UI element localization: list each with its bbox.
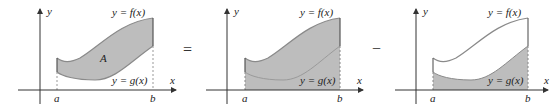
y-axis-label: y — [46, 5, 52, 17]
panel-area-under-f: y x y = f(x) y = g(x) a b — [206, 5, 363, 104]
x-axis-label: x — [356, 74, 362, 86]
panel-area-under-g: y x y = f(x) y = g(x) a b — [395, 5, 549, 104]
b-label: b — [337, 92, 343, 104]
b-label: b — [525, 92, 531, 104]
g-label: y = g(x) — [487, 74, 524, 87]
a-label: a — [54, 92, 60, 104]
x-axis-label: x — [543, 74, 549, 86]
equals-sign: = — [183, 41, 192, 58]
x-axis-label: x — [169, 74, 175, 86]
y-axis-label: y — [422, 5, 428, 17]
area-between-curves-diagram: y x y = f(x) y = g(x) A a b = y x y = f(… — [0, 0, 559, 108]
panel-region-between-curves: y x y = f(x) y = g(x) A a b — [18, 5, 176, 104]
f-label: y = f(x) — [111, 6, 145, 19]
b-label: b — [150, 92, 156, 104]
f-label: y = f(x) — [487, 6, 521, 19]
region-a-fill — [57, 18, 153, 80]
curve-f — [433, 18, 528, 61]
a-label: a — [242, 92, 248, 104]
g-label: y = g(x) — [299, 74, 336, 87]
f-label: y = f(x) — [299, 6, 333, 19]
g-label: y = g(x) — [111, 74, 148, 87]
y-axis-label: y — [233, 5, 239, 17]
area-label: A — [99, 52, 107, 64]
a-label: a — [430, 92, 436, 104]
minus-sign: − — [372, 40, 381, 57]
